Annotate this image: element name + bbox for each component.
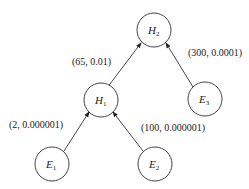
edge-e2-to-h1 (113, 112, 143, 151)
node-e1: E1 (35, 147, 69, 181)
edge-e1-to-h1 (64, 112, 89, 151)
edge-label-e2-h1: (100, 0.000001) (141, 122, 205, 134)
bayesian-network-diagram: (65, 0.01) (300, 0.0001) (2, 0.000001) (… (0, 0, 249, 189)
node-h1: H1 (84, 83, 118, 117)
node-h2: H2 (137, 13, 171, 47)
node-e3: E3 (188, 82, 222, 116)
edge-label-e1-h1: (2, 0.000001) (9, 119, 63, 131)
node-e2: E2 (138, 147, 172, 181)
edge-label-e3-h2: (300, 0.0001) (188, 47, 242, 59)
edge-label-h1-h2: (65, 0.01) (72, 56, 111, 68)
